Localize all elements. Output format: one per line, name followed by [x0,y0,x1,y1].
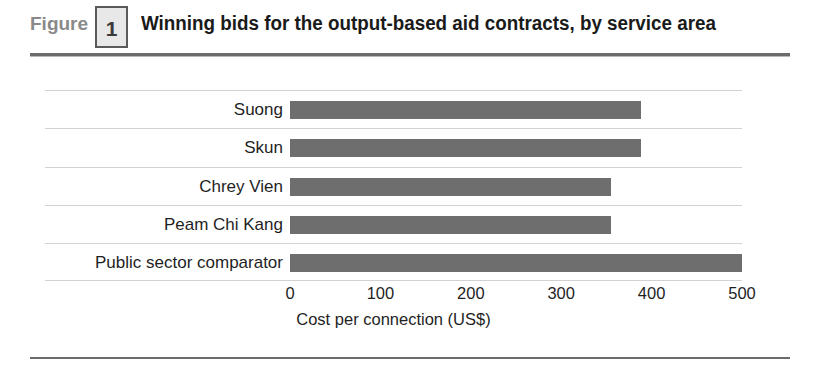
x-tick-label: 500 [728,284,756,303]
x-tick-label: 200 [457,284,485,303]
x-axis-ticks: 0100200300400500 [45,284,742,308]
chart-row: Peam Chi Kang [45,205,742,243]
x-tick-label: 300 [547,284,575,303]
bar-chrey-vien [290,178,611,196]
category-label: Public sector comparator [45,244,283,282]
chart-row: Public sector comparator [45,243,742,281]
bar-chart: Suong Skun Chrey Vien Peam Chi Kang Publ [0,60,815,320]
figure-title: Winning bids for the output-based aid co… [141,10,716,36]
footer-divider [30,357,790,359]
bar-track [290,91,742,129]
bar-skun [290,139,641,157]
category-label: Peam Chi Kang [45,206,283,244]
bar-track [290,129,742,167]
x-tick-label: 400 [638,284,666,303]
figure-number-box: 1 [95,6,128,48]
chart-row: Suong [45,90,742,128]
x-tick-label: 100 [367,284,395,303]
bar-public-sector-comparator [290,254,742,272]
bar-track [290,244,742,282]
bar-track [290,168,742,206]
figure-number: 1 [97,8,126,50]
figure-label: Figure [30,13,88,35]
x-axis-title-text: Cost per connection (US$) [296,310,490,329]
bar-peam-chi-kang [290,216,611,234]
bar-suong [290,101,641,119]
category-label: Skun [45,129,283,167]
bar-track [290,206,742,244]
x-tick-label: 0 [285,284,294,303]
category-label: Chrey Vien [45,168,283,206]
category-label: Suong [45,91,283,129]
chart-plot-area: Suong Skun Chrey Vien Peam Chi Kang Publ [45,90,742,282]
x-axis-title: Cost per connection (US$) [45,310,742,329]
figure-header: Figure 1 Winning bids for the output-bas… [0,0,815,60]
chart-row: Skun [45,128,742,166]
header-divider-shadow [30,56,790,57]
chart-row: Chrey Vien [45,167,742,205]
